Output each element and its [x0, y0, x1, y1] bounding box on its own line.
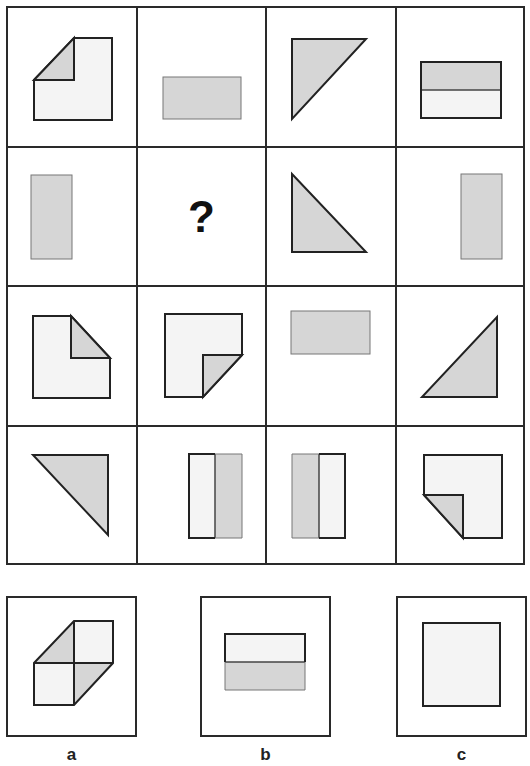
- cell-r1c2: [136, 6, 267, 148]
- option-a-label: a: [6, 745, 137, 765]
- cell-r1c3: [265, 6, 397, 148]
- triangle-icon: [8, 427, 138, 565]
- square-icon: [398, 598, 525, 735]
- split-rectangle-icon: [397, 8, 525, 148]
- folded-square-icon: [8, 8, 138, 148]
- question-mark: ?: [138, 148, 265, 285]
- rectangle-icon: [397, 148, 525, 287]
- two-folded-squares-icon: [8, 598, 135, 735]
- cell-r3c3: [265, 285, 397, 427]
- cell-r2c1: [6, 146, 138, 287]
- cell-r3c1: [6, 285, 138, 427]
- cell-r3c2: [136, 285, 267, 427]
- option-a[interactable]: [6, 596, 137, 737]
- option-b-label: b: [200, 745, 331, 765]
- option-b[interactable]: [200, 596, 331, 737]
- cell-r3c4: [395, 285, 525, 427]
- cell-r4c4: [395, 425, 525, 565]
- cell-r4c1: [6, 425, 138, 565]
- option-c[interactable]: [396, 596, 527, 737]
- cell-r2c2-missing[interactable]: ?: [136, 146, 267, 287]
- rectangle-icon: [267, 287, 397, 427]
- cell-r1c1: [6, 6, 138, 148]
- triangle-icon: [397, 287, 525, 427]
- cell-r4c3: [265, 425, 397, 565]
- folded-square-icon: [397, 427, 525, 565]
- cell-r2c4: [395, 146, 525, 287]
- rectangle-icon: [8, 148, 138, 287]
- folded-square-icon: [138, 287, 267, 427]
- rectangle-icon: [138, 8, 267, 148]
- option-c-label: c: [396, 745, 527, 765]
- cell-r2c3: [265, 146, 397, 287]
- split-rectangle-icon: [267, 427, 397, 565]
- cell-r4c2: [136, 425, 267, 565]
- folded-square-icon: [8, 287, 138, 427]
- cell-r1c4: [395, 6, 525, 148]
- split-rectangle-icon: [202, 598, 329, 735]
- triangle-icon: [267, 148, 397, 287]
- puzzle-grid: ?: [6, 6, 525, 565]
- split-rectangle-icon: [138, 427, 267, 565]
- triangle-icon: [267, 8, 397, 148]
